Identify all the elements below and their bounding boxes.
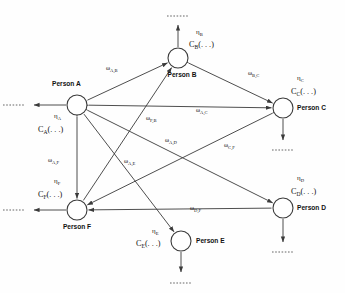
edge-label-A-B: ωA,B: [106, 64, 118, 74]
network-diagram: ωA,BωB,CωA,CωF,BωA,DωC,FωA,FωA,EωD,FPers…: [0, 0, 345, 293]
cost-label-F: CF(. . .): [38, 190, 63, 200]
edge-label-D-F: ωD,F: [190, 204, 202, 214]
edge-label-A-C: ωA,C: [196, 106, 208, 116]
edge-F-B: [83, 68, 171, 201]
edge-label-B-C: ωB,C: [248, 69, 259, 79]
edge-label-A-F: ωA,F: [48, 156, 60, 166]
edge-B-C: [188, 63, 272, 103]
node-label-A: Person A: [52, 80, 81, 87]
node-label-F: Person F: [63, 223, 91, 230]
node-F[interactable]: [67, 200, 87, 220]
edge-layer: [77, 63, 273, 232]
eta-label-F: ηF: [54, 177, 61, 186]
edge-A-B: [87, 63, 167, 100]
node-C[interactable]: [273, 98, 293, 118]
eta-label-A: ηA: [54, 112, 62, 121]
node-A[interactable]: [67, 95, 87, 115]
edge-A-C: [88, 105, 271, 108]
node-B[interactable]: [168, 48, 188, 68]
edge-C-F: [87, 113, 272, 205]
edge-label-A-E: ωA,E: [124, 157, 136, 167]
eta-label-C: ηC: [297, 74, 304, 83]
cost-label-D: CD(. . .): [291, 187, 316, 197]
edge-D-F: [88, 208, 271, 210]
cost-label-B: CB(. . .): [189, 40, 214, 50]
node-layer: [67, 48, 293, 251]
cost-label-C: CC(. . .): [291, 87, 316, 97]
node-D[interactable]: [273, 198, 293, 218]
cost-label-E: CE(. . .): [136, 239, 161, 249]
eta-label-E: ηE: [152, 227, 159, 236]
node-label-D: Person D: [297, 204, 326, 211]
edge-label-C-F: ωC,F: [224, 141, 235, 151]
node-label-B: Person B: [168, 71, 197, 78]
node-E[interactable]: [171, 231, 191, 251]
cost-label-A: CA(. . .): [38, 125, 63, 135]
node-label-C: Person C: [297, 104, 326, 111]
edge-A-D: [87, 110, 272, 203]
eta-label-D: ηD: [297, 174, 305, 183]
edge-label-A-D: ωA,D: [165, 136, 178, 146]
node-label-E: Person E: [196, 237, 225, 244]
edge-label-F-B: ωF,B: [146, 114, 156, 124]
eta-label-B: ηB: [196, 28, 203, 37]
